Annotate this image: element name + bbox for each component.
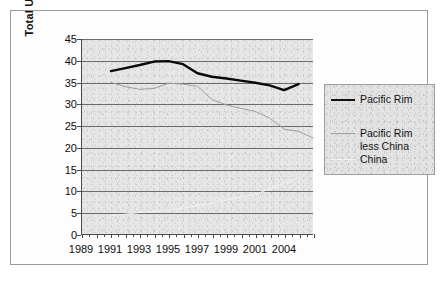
x-axis-tick: [118, 234, 119, 237]
x-axis-tick: [169, 234, 170, 238]
x-axis-tick: [184, 234, 185, 238]
x-axis-tick: [82, 234, 83, 238]
x-axis-tick: [111, 234, 112, 238]
x-axis-tick: [278, 234, 279, 237]
x-axis-tick: [307, 234, 308, 237]
y-axis-tick-label: 20: [43, 142, 77, 154]
y-axis-tick-label: 10: [43, 185, 77, 197]
y-axis-tick-labels: 051015202530354045: [39, 39, 77, 235]
series-line: [111, 61, 299, 90]
x-axis-tick: [176, 234, 177, 237]
y-axis-tick: [77, 235, 81, 236]
y-axis-tick-label: 5: [43, 207, 77, 219]
x-axis-tick-label: 2004: [272, 243, 296, 255]
x-axis-tick: [162, 234, 163, 237]
x-axis-tick-label: 1991: [98, 243, 122, 255]
x-axis-tick: [271, 234, 272, 238]
y-axis-tick-label: 25: [43, 120, 77, 132]
x-axis-tick: [227, 234, 228, 238]
chart-legend: Pacific RimPacific Rim less ChinaChina: [324, 84, 435, 175]
y-axis-tick-label: 40: [43, 55, 77, 67]
x-axis-tick: [242, 234, 243, 238]
legend-swatch-3: [331, 159, 355, 160]
x-axis-tick: [97, 234, 98, 238]
x-axis-tick-label: 1995: [156, 243, 180, 255]
legend-item[interactable]: Pacific Rim: [331, 93, 434, 106]
x-axis-tick: [249, 234, 250, 237]
legend-swatch-1: [331, 99, 355, 101]
x-axis-tick-labels: 19891991199319951997199920012004: [66, 243, 336, 259]
y-axis-tick-label: 45: [43, 33, 77, 45]
x-axis-tick: [263, 234, 264, 237]
x-axis-tick: [140, 234, 141, 238]
chart-frame: Total US Imports, % 051015202530354045 1…: [10, 10, 428, 265]
x-axis-tick: [126, 234, 127, 238]
x-axis-tick: [205, 234, 206, 237]
legend-item[interactable]: Pacific Rim less China: [331, 127, 434, 153]
y-axis-tick-label: 0: [43, 229, 77, 241]
y-axis-tick-label: 30: [43, 98, 77, 110]
x-axis-tick: [155, 234, 156, 238]
plot-area: [81, 39, 313, 235]
x-axis-tick: [285, 234, 286, 238]
legend-swatch-2: [331, 133, 355, 134]
x-axis-tick: [133, 234, 134, 237]
x-axis-tick: [314, 234, 315, 238]
x-axis-tick: [234, 234, 235, 237]
legend-label: Pacific Rim less China: [360, 127, 434, 153]
x-axis-tick: [292, 234, 293, 237]
y-axis-tick-label: 15: [43, 164, 77, 176]
x-axis-tick-label: 1999: [214, 243, 238, 255]
y-axis-tick-label: 35: [43, 77, 77, 89]
x-axis-tick-label: 2001: [243, 243, 267, 255]
x-axis-tick: [104, 234, 105, 237]
x-axis-tick: [198, 234, 199, 238]
x-axis-tick-label: 1993: [127, 243, 151, 255]
x-axis-tick: [300, 234, 301, 238]
series-line: [111, 178, 299, 216]
x-axis-tick: [220, 234, 221, 237]
x-axis-tick-label: 1997: [185, 243, 209, 255]
legend-label: Pacific Rim: [360, 93, 434, 106]
y-axis-title: Total US Imports, %: [23, 0, 35, 63]
x-axis-tick: [147, 234, 148, 237]
x-axis-tick: [256, 234, 257, 238]
legend-item[interactable]: China: [331, 153, 434, 166]
x-axis-tick: [213, 234, 214, 238]
x-axis-tick-label: 1989: [69, 243, 93, 255]
x-axis-tick: [191, 234, 192, 237]
series-lines: [82, 39, 313, 234]
x-axis-tick: [89, 234, 90, 237]
legend-label: China: [360, 153, 434, 166]
